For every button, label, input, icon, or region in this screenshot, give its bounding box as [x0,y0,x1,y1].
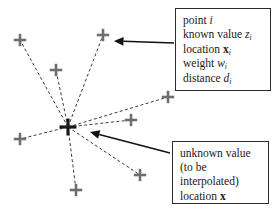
distance-line-4 [68,97,168,127]
callout-line: known value zi [183,27,264,41]
distance-lines-group [20,35,168,190]
distance-line-6 [20,127,68,139]
arrow-shaft [99,134,170,153]
math-subscript: i [229,76,231,85]
known-point-marker-8 [70,184,82,196]
distance-line-7 [68,127,140,175]
callout-line: point i [183,13,264,27]
known-point-marker-5 [125,114,137,126]
distance-line-3 [68,35,103,127]
known-point-marker-2 [50,64,62,76]
unknown-point-arrow [90,130,170,153]
distance-line-8 [68,127,76,190]
arrow-shaft [123,41,174,43]
unknown-point-callout: unknown value (to be interpolated) locat… [172,141,269,204]
callout-line: location x [180,189,262,203]
math-variable: i [210,14,213,26]
distance-line-1 [20,40,68,127]
known-point-marker-3 [97,29,109,41]
known-point-arrow [114,37,174,46]
callout-line: (to be [180,160,262,174]
callout-line: unknown value [180,146,262,160]
known-point-callout: point i known value zi location xi weigh… [175,8,271,91]
annotation-arrows-group [90,37,174,153]
known-point-marker-6 [14,133,26,145]
math-subscript: i [225,62,227,71]
arrow-head [90,130,100,139]
known-point-marker-4 [162,91,174,103]
distance-line-2 [56,70,68,127]
math-variable: w [217,57,225,69]
known-point-markers-group [14,29,174,196]
distance-line-5 [68,120,131,127]
math-subscript: i [249,33,251,42]
known-point-marker-1 [14,34,26,46]
idw-interpolation-figure: point i known value zi location xi weigh… [0,0,278,213]
math-subscript: i [229,47,231,56]
callout-line: location xi [183,42,264,56]
known-point-marker-7 [134,169,146,181]
callout-line: interpolated) [180,174,262,188]
math-variable: x [220,190,226,202]
callout-line: weight wi [183,56,264,70]
callout-line: distance di [183,71,264,85]
arrow-head [114,37,124,46]
center-point-marker [60,119,77,136]
